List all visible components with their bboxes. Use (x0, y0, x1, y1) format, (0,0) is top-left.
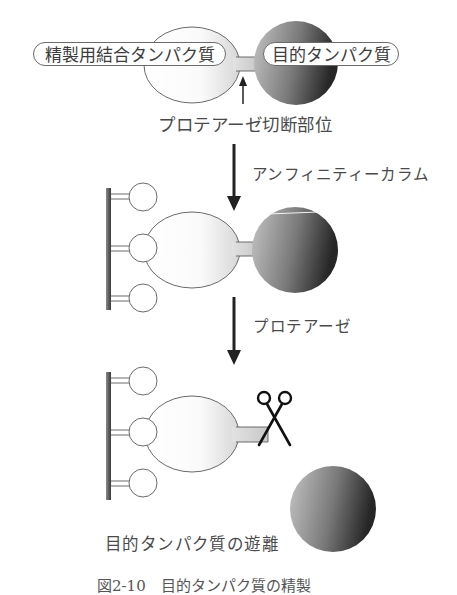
ligand-bead (129, 234, 157, 262)
affinity-column-step-label: アンフィニティーカラム (252, 162, 429, 184)
cleaved-complex (106, 367, 291, 500)
scissors-icon (258, 392, 291, 445)
step-arrow-2 (227, 297, 241, 365)
binding-protein-shape (145, 396, 239, 472)
ligand-bead (129, 284, 157, 312)
protease-step-label: プロテアーゼ (253, 314, 351, 336)
target-protein-shape (252, 207, 338, 293)
target-protein-label: 目的タンパク質 (263, 42, 399, 66)
release-label: 目的タンパク質の遊離 (105, 531, 279, 555)
ligand-bead (129, 183, 157, 211)
ligand-bead (129, 469, 157, 497)
column-bound-complex (106, 183, 338, 312)
step-arrow-1 (227, 144, 241, 211)
ligand-bead (129, 367, 157, 395)
column-support-bar (106, 372, 111, 500)
binding-protein-shape (144, 212, 240, 288)
ligand-bead (129, 418, 157, 446)
linker-neck (233, 57, 257, 71)
cleavage-site-label: プロテアーゼ切断部位 (158, 111, 332, 136)
figure-caption: 図2-10 目的タンパク質の精製 (97, 574, 311, 595)
column-support-bar (106, 188, 111, 310)
released-target-protein (290, 466, 376, 552)
binding-protein-label: 精製用結合タンパク質 (33, 42, 226, 66)
